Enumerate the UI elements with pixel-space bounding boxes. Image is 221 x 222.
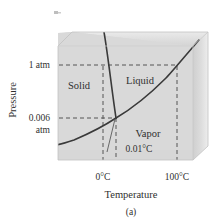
plot-face-body xyxy=(58,45,193,160)
y-tick-0006atm-unit: atm xyxy=(36,125,51,135)
region-label-liquid: Liquid xyxy=(126,75,155,86)
block-right-face xyxy=(193,32,208,160)
y-tick-1atm: 1 atm xyxy=(29,60,51,70)
region-label-vapor: Vapor xyxy=(135,128,161,139)
phase-diagram-figure: Pressure 1 atm 0.006 atm 0°C 100°C Tempe… xyxy=(0,0,221,222)
x-tick-100degC: 100°C xyxy=(165,172,189,182)
y-tick-0006atm-value: 0.006 xyxy=(29,113,51,123)
scan-artifact-speck xyxy=(54,11,61,14)
y-axis-title: Pressure xyxy=(7,82,18,118)
annotation-triple-point: 0.01°C xyxy=(126,144,153,154)
x-tick-0degC: 0°C xyxy=(96,172,111,182)
figure-caption: (a) xyxy=(126,207,137,218)
region-label-solid: Solid xyxy=(68,80,91,91)
x-axis-title: Temperature xyxy=(105,189,158,200)
